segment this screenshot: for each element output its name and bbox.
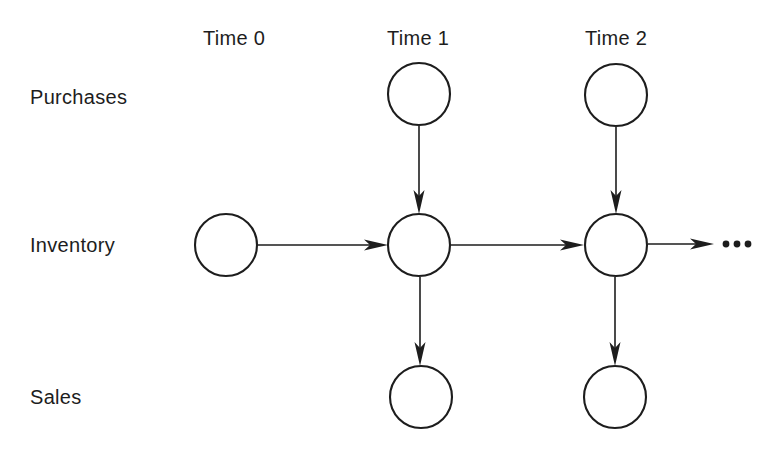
- node-sales-time-1[interactable]: [390, 366, 452, 428]
- continuation-ellipsis: [723, 241, 752, 248]
- row-label-inventory: Inventory: [30, 234, 115, 257]
- inventory-flow-diagram: Time 0 Time 1 Time 2 Purchases Inventory…: [0, 0, 784, 460]
- node-purchases-time-2[interactable]: [585, 64, 647, 126]
- flow-graph-canvas: [0, 0, 784, 460]
- row-label-sales: Sales: [30, 386, 82, 409]
- edge-inventory-t1-to-inventory-t2: [451, 240, 584, 251]
- edge-inventory-t0-to-inventory-t1: [258, 240, 388, 251]
- node-inventory-time-0[interactable]: [195, 214, 257, 276]
- edge-inventory-t2-to-sales-t2: [610, 277, 621, 366]
- edge-purchases-t2-to-inventory-t2: [611, 127, 622, 214]
- column-header-time-1: Time 1: [387, 27, 449, 50]
- node-inventory-time-1[interactable]: [388, 214, 450, 276]
- node-sales-time-2[interactable]: [584, 366, 646, 428]
- row-label-purchases: Purchases: [30, 86, 127, 109]
- edge-inventory-t1-to-sales-t1: [415, 277, 426, 366]
- column-header-time-2: Time 2: [585, 27, 647, 50]
- node-inventory-time-2[interactable]: [585, 214, 647, 276]
- node-purchases-time-1[interactable]: [388, 63, 450, 125]
- edge-purchases-t1-to-inventory-t1: [414, 126, 425, 214]
- edge-inventory-t2-to-continuation: [648, 239, 714, 250]
- column-header-time-0: Time 0: [203, 27, 265, 50]
